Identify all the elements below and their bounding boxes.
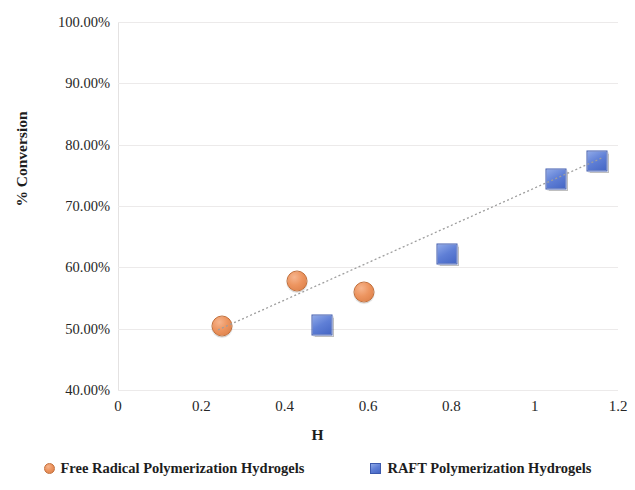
x-axis-tick-label: 1.2 (588, 398, 635, 414)
legend-item-label: Free Radical Polymerization Hydrogels (61, 460, 305, 477)
y-axis-tick-label: 60.00% (22, 260, 110, 274)
legend-item-raft[interactable]: RAFT Polymerization Hydrogels (370, 460, 591, 477)
scatter-chart: % Conversion 40.00%50.00%60.00%70.00%80.… (0, 0, 635, 490)
y-axis-tick-label: 70.00% (22, 199, 110, 213)
plot-area (118, 22, 618, 390)
gridline (118, 206, 618, 207)
x-axis-tick-label: 1 (505, 398, 565, 414)
gridline (118, 145, 618, 146)
data-point-marker[interactable] (353, 282, 374, 303)
y-axis-tick-label: 100.00% (22, 15, 110, 29)
gridline (118, 390, 618, 391)
data-point-marker[interactable] (312, 314, 333, 335)
y-axis-tick-label: 40.00% (22, 383, 110, 397)
x-axis-tick-label: 0.8 (421, 398, 481, 414)
x-axis-tick-label: 0.4 (255, 398, 315, 414)
x-axis-tick-label: 0 (88, 398, 148, 414)
data-point-marker[interactable] (545, 169, 566, 190)
data-point-marker[interactable] (437, 244, 458, 265)
data-point-marker[interactable] (287, 271, 308, 292)
data-point-marker[interactable] (587, 150, 608, 171)
x-axis-tick-label: 0.6 (338, 398, 398, 414)
gridline (118, 329, 618, 330)
square-marker-icon (370, 463, 381, 474)
gridline (118, 22, 618, 23)
gridline (118, 267, 618, 268)
y-axis-tick-label: 50.00% (22, 322, 110, 336)
y-axis-title: % Conversion (13, 69, 31, 249)
legend-item-label: RAFT Polymerization Hydrogels (387, 460, 591, 477)
gridline (118, 83, 618, 84)
x-axis-title: H (0, 426, 635, 444)
data-point-marker[interactable] (212, 316, 233, 337)
x-axis-tick-label: 0.2 (171, 398, 231, 414)
y-axis-tick-label: 90.00% (22, 76, 110, 90)
chart-legend: Free Radical Polymerization Hydrogels RA… (0, 455, 635, 481)
legend-item-free-radical[interactable]: Free Radical Polymerization Hydrogels (44, 460, 305, 477)
circle-marker-icon (44, 463, 55, 474)
y-axis-tick-label: 80.00% (22, 138, 110, 152)
